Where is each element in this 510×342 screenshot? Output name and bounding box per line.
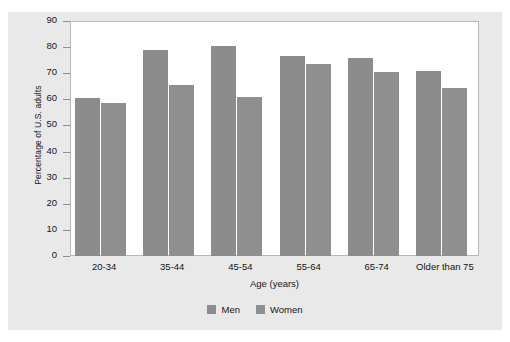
y-tick-mark bbox=[63, 256, 70, 257]
y-tick-label: 20 bbox=[46, 197, 57, 208]
x-tick-label: 55-64 bbox=[275, 261, 343, 272]
bar-group bbox=[275, 21, 343, 256]
bar-men-35-44 bbox=[143, 50, 168, 256]
legend-swatch-icon bbox=[207, 305, 216, 314]
bar-group bbox=[411, 21, 479, 256]
bar-women-55-64 bbox=[306, 64, 331, 256]
bar-men-55-64 bbox=[280, 56, 305, 256]
chart-legend: MenWomen bbox=[8, 304, 502, 315]
y-tick-mark bbox=[63, 125, 70, 126]
bar-group bbox=[70, 21, 138, 256]
y-tick-label: 0 bbox=[52, 249, 57, 260]
y-tick-label: 80 bbox=[46, 40, 57, 51]
bar-group bbox=[343, 21, 411, 256]
bar-group bbox=[206, 21, 274, 256]
y-tick-mark bbox=[63, 47, 70, 48]
bar-men-65-74 bbox=[348, 58, 373, 256]
y-tick-mark bbox=[63, 152, 70, 153]
bar-women-20-34 bbox=[101, 103, 126, 256]
y-tick-mark bbox=[63, 99, 70, 100]
y-tick-label: 30 bbox=[46, 171, 57, 182]
bar-women-65-74 bbox=[374, 72, 399, 256]
bar-women-35-44 bbox=[169, 85, 194, 256]
legend-item-women: Women bbox=[256, 304, 303, 315]
bar-men-older-than-75 bbox=[416, 71, 441, 256]
bar-group bbox=[138, 21, 206, 256]
bar-women-45-54 bbox=[237, 97, 262, 256]
x-tick-label: 65-74 bbox=[343, 261, 411, 272]
y-tick-mark bbox=[63, 21, 70, 22]
x-axis-tick-labels: 20-3435-4445-5455-6465-74Older than 75 bbox=[70, 261, 479, 277]
y-tick-mark bbox=[63, 204, 70, 205]
x-axis-title: Age (years) bbox=[70, 278, 479, 289]
y-tick-label: 10 bbox=[46, 223, 57, 234]
bars-container bbox=[70, 21, 479, 256]
bar-men-20-34 bbox=[75, 98, 100, 256]
legend-label: Men bbox=[221, 304, 239, 315]
y-tick-mark bbox=[63, 230, 70, 231]
legend-swatch-icon bbox=[256, 305, 265, 314]
y-tick-label: 60 bbox=[46, 92, 57, 103]
x-tick-label: 45-54 bbox=[206, 261, 274, 272]
y-tick-label: 50 bbox=[46, 118, 57, 129]
bar-men-45-54 bbox=[211, 46, 236, 256]
x-tick-label: Older than 75 bbox=[411, 261, 479, 272]
y-tick-mark bbox=[63, 178, 70, 179]
y-tick-label: 70 bbox=[46, 66, 57, 77]
y-axis-title: Percentage of U.S. adults bbox=[33, 35, 43, 235]
y-tick-label: 90 bbox=[46, 14, 57, 25]
chart-figure: Percentage of U.S. adults 20-3435-4445-5… bbox=[8, 12, 502, 330]
y-tick-mark bbox=[63, 73, 70, 74]
x-tick-label: 35-44 bbox=[138, 261, 206, 272]
legend-label: Women bbox=[270, 304, 303, 315]
legend-item-men: Men bbox=[207, 304, 239, 315]
x-tick-label: 20-34 bbox=[70, 261, 138, 272]
bar-women-older-than-75 bbox=[442, 88, 467, 256]
y-tick-label: 40 bbox=[46, 145, 57, 156]
